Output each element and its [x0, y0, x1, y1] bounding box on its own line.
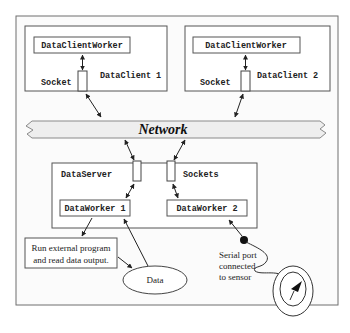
- network-band: Network: [26, 121, 326, 138]
- data-node: Data: [123, 266, 187, 294]
- serial-line3: to sensor: [219, 272, 251, 282]
- serial-line2: connected: [219, 261, 256, 271]
- server-socket-2: [167, 161, 175, 181]
- data-server: DataServer Sockets DataWorker 1 DataWork…: [52, 161, 257, 228]
- sockets-label: Sockets: [183, 170, 219, 180]
- server-socket-1: [133, 161, 141, 181]
- network-label: Network: [138, 122, 188, 137]
- socket-label: Socket: [41, 78, 72, 88]
- client-label: DataClient 2: [257, 71, 318, 81]
- external-program: Run external program and read data outpu…: [25, 238, 117, 268]
- data-client-1: DataClientWorker Socket DataClient 1: [25, 26, 167, 91]
- data-client-2: DataClientWorker Socket DataClient 2: [185, 26, 330, 91]
- sensor-icon: [273, 266, 313, 316]
- socket-icon: [241, 71, 250, 91]
- server-label: DataServer: [61, 170, 112, 180]
- architecture-diagram: DataClientWorker Socket DataClient 1 Dat…: [0, 0, 350, 333]
- socket-label: Socket: [200, 78, 231, 88]
- socket-icon: [78, 71, 87, 91]
- serial-line1: Serial port: [219, 250, 257, 260]
- data-worker-2-label: DataWorker 2: [176, 204, 237, 214]
- data-worker-1-label: DataWorker 1: [64, 204, 125, 214]
- external-program-line1: Run external program: [32, 243, 111, 253]
- client-label: DataClient 1: [100, 71, 161, 81]
- external-program-line2: and read data output.: [33, 255, 108, 265]
- data-label: Data: [147, 275, 164, 285]
- client-worker-label: DataClientWorker: [205, 41, 287, 51]
- client-worker-label: DataClientWorker: [41, 41, 123, 51]
